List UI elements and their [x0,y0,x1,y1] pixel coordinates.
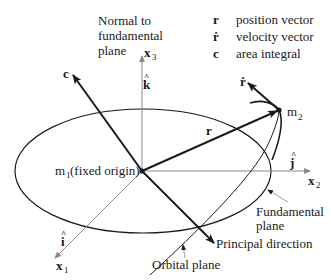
x1-axis [55,171,142,258]
normal-label-line1: Normal to [98,13,151,28]
k-hat-label: k [143,77,151,92]
rdot-vector [248,83,279,110]
orbital-plane-label: Orbital plane [152,257,220,272]
normal-label-line2: fundamental [98,28,163,43]
x1-subscript: 1 [64,265,69,275]
legend: r position vector ṙ velocity vector c ar… [213,12,314,61]
x2-label: x [308,173,315,188]
m2-point [276,107,281,112]
orbital-geometry-diagram: r position vector ṙ velocity vector c ar… [0,0,331,280]
legend-symbol-r: r [213,12,219,27]
normal-label-line3: plane [98,43,126,58]
m2-label: m [287,104,297,119]
i-hat-label: i [61,234,65,249]
fundamental-plane-label-line1: Fundamental [256,204,324,219]
m1-label: m 1 (fixed origin) [55,163,140,180]
m1-point [139,168,144,173]
legend-symbol-c: c [213,46,219,61]
svg-text:(fixed origin): (fixed origin) [70,163,140,178]
c-vector-label: c [63,66,69,81]
legend-desc-r: position vector [236,12,314,27]
m2-subscript: 2 [298,112,303,122]
svg-text:m: m [55,163,65,178]
j-hat-label: j [289,155,294,170]
rdot-vector-label: ṙ [240,74,246,89]
x2-subscript: 2 [316,180,321,190]
x1-label: x [56,258,63,273]
legend-desc-c: area integral [236,46,301,61]
x3-label: x [144,45,151,60]
legend-symbol-rdot: ṙ [213,29,219,44]
legend-desc-rdot: velocity vector [236,29,314,44]
r-vector [142,111,277,171]
r-vector-label: r [206,123,212,138]
x3-subscript: 3 [152,52,157,62]
fundamental-plane-label-line2: plane [256,218,284,233]
principal-direction-vector [142,171,214,243]
fundamental-plane-leader-line [268,190,288,202]
c-vector [73,75,142,171]
principal-direction-label: Principal direction [216,236,313,251]
